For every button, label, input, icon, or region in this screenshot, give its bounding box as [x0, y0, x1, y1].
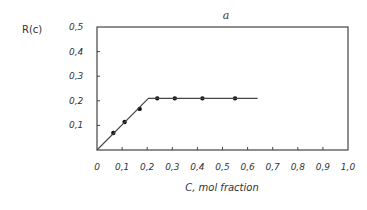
x-tick-label: 0,5 — [215, 162, 230, 172]
plot-frame — [97, 27, 348, 150]
x-axis-label: C, mol fraction — [185, 182, 259, 193]
fit-line — [97, 98, 258, 150]
y-tick-label: 0,4 — [69, 47, 84, 57]
data-series — [97, 96, 258, 150]
x-tick-label: 0,8 — [291, 162, 306, 172]
y-axis-ticks: 0,10,20,30,40,5 — [69, 22, 100, 130]
y-tick-label: 0,3 — [69, 71, 84, 81]
chart-title: a — [223, 9, 230, 22]
plot-border — [97, 27, 348, 150]
y-tick-label: 0,5 — [69, 22, 84, 32]
x-tick-label: 1,0 — [341, 162, 356, 172]
x-tick-label: 0,9 — [316, 162, 331, 172]
chart: 00,10,20,30,40,50,60,70,80,91,0 0,10,20,… — [0, 0, 367, 210]
x-tick-label: 0,4 — [190, 162, 205, 172]
x-tick-label: 0,3 — [165, 162, 180, 172]
x-tick-label: 0,2 — [140, 162, 155, 172]
y-tick-label: 0,1 — [69, 120, 83, 130]
x-tick-label: 0,7 — [266, 162, 281, 172]
x-axis-ticks: 00,10,20,30,40,50,60,70,80,91,0 — [94, 147, 355, 172]
x-tick-label: 0,1 — [115, 162, 129, 172]
x-tick-label: 0 — [94, 162, 100, 172]
y-axis-label: R(c) — [22, 24, 42, 35]
x-tick-label: 0,6 — [240, 162, 255, 172]
y-tick-label: 0,2 — [69, 96, 84, 106]
